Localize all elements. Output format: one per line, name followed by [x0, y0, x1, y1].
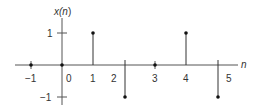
- y-tick-label-minus1: −1: [40, 92, 52, 103]
- x-tick-label-4: 4: [183, 73, 189, 84]
- x-tick-label-0: 0: [66, 73, 72, 84]
- y-axis-label: x(n): [53, 6, 71, 17]
- plot-svg: x(n) n 1 −1 −1 0 1 2 3 4 5: [0, 0, 255, 111]
- x-tick-label-2: 2: [111, 73, 117, 84]
- stem-plot: x(n) n 1 −1 −1 0 1 2 3 4 5: [0, 0, 255, 111]
- x-tick-label-1: 1: [90, 73, 96, 84]
- x-tick-label-3: 3: [152, 73, 158, 84]
- x-tick-label-5: 5: [226, 73, 232, 84]
- y-tick-label-1: 1: [47, 28, 53, 39]
- x-axis-label: n: [241, 59, 247, 70]
- x-tick-label-minus1: −1: [25, 73, 37, 84]
